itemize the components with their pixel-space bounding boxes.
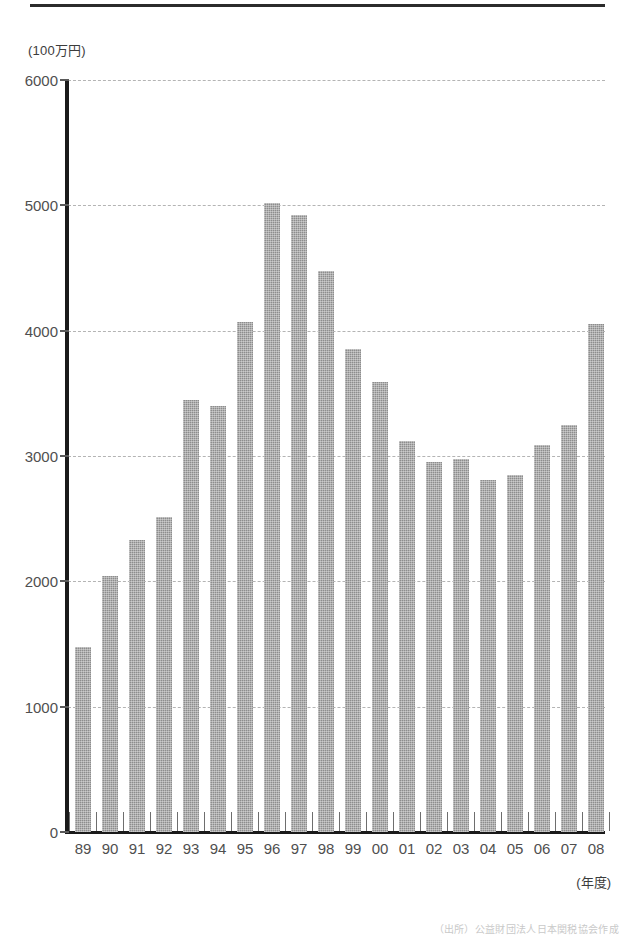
x-tick-label-04: 04 [474,840,502,857]
x-tick-label-01: 01 [393,840,421,857]
top-horizontal-rule [30,4,605,7]
x-tick-label-98: 98 [312,840,340,857]
y-tick-label-0: 0 [6,824,58,841]
x-tick-mark-20 [609,812,610,831]
x-tick-label-03: 03 [447,840,475,857]
x-tick-mark-0 [69,812,70,831]
source-caption: （出所）公益財団法人日本関税協会作成 [434,921,619,936]
bar-93 [183,400,199,832]
x-tick-mark-7 [258,812,259,831]
x-tick-mark-19 [582,812,583,831]
x-tick-mark-2 [123,812,124,831]
x-tick-label-96: 96 [258,840,286,857]
x-tick-label-97: 97 [285,840,313,857]
bar-89 [75,647,91,832]
x-tick-label-08: 08 [582,840,610,857]
bar-99 [345,349,361,832]
y-tick-mark-1000 [60,706,69,708]
x-tick-label-06: 06 [528,840,556,857]
bar-02 [426,462,442,832]
x-tick-mark-18 [555,812,556,831]
x-tick-mark-6 [231,812,232,831]
bar-series-group [68,80,605,832]
bar-08 [588,324,604,832]
bar-07 [561,425,577,832]
x-tick-mark-10 [339,812,340,831]
x-tick-label-90: 90 [96,840,124,857]
x-tick-label-07: 07 [555,840,583,857]
x-tick-mark-14 [447,812,448,831]
bar-04 [480,480,496,832]
y-tick-mark-0 [60,831,69,833]
bar-00 [372,382,388,832]
x-tick-label-00: 00 [366,840,394,857]
bar-94 [210,406,226,832]
x-tick-label-95: 95 [231,840,259,857]
x-tick-mark-5 [204,812,205,831]
y-tick-label-4000: 4000 [6,322,58,339]
x-tick-mark-13 [420,812,421,831]
x-tick-mark-17 [528,812,529,831]
x-tick-mark-3 [150,812,151,831]
bar-05 [507,475,523,832]
bar-01 [399,441,415,832]
x-tick-label-91: 91 [123,840,151,857]
y-tick-mark-3000 [60,455,69,457]
bar-97 [291,215,307,832]
y-tick-label-1000: 1000 [6,698,58,715]
bar-92 [156,517,172,832]
y-tick-mark-5000 [60,204,69,206]
x-tick-mark-16 [501,812,502,831]
x-tick-label-92: 92 [150,840,178,857]
bar-90 [102,576,118,832]
y-tick-mark-2000 [60,580,69,582]
x-axis-tick-labels: 8990919293949596979899000102030405060708 [68,840,605,864]
x-tick-label-93: 93 [177,840,205,857]
y-tick-label-3000: 3000 [6,448,58,465]
x-tick-mark-12 [393,812,394,831]
x-axis-title: (年度) [576,872,611,891]
bar-95 [237,322,253,832]
bar-98 [318,271,334,832]
y-tick-mark-4000 [60,330,69,332]
x-tick-mark-15 [474,812,475,831]
x-tick-label-99: 99 [339,840,367,857]
x-tick-label-02: 02 [420,840,448,857]
x-tick-mark-8 [285,812,286,831]
bar-06 [534,445,550,832]
bar-96 [264,203,280,832]
bar-91 [129,540,145,832]
x-tick-mark-4 [177,812,178,831]
x-tick-label-89: 89 [69,840,97,857]
bar-03 [453,459,469,832]
y-tick-label-5000: 5000 [6,197,58,214]
y-axis-tick-labels: 0100020003000400050006000 [0,0,58,934]
y-tick-label-2000: 2000 [6,573,58,590]
x-tick-label-05: 05 [501,840,529,857]
x-axis-tick-marks [68,812,605,832]
y-tick-mark-6000 [60,79,69,81]
y-tick-label-6000: 6000 [6,72,58,89]
x-tick-label-94: 94 [204,840,232,857]
x-tick-mark-11 [366,812,367,831]
x-tick-mark-1 [96,812,97,831]
x-tick-mark-9 [312,812,313,831]
